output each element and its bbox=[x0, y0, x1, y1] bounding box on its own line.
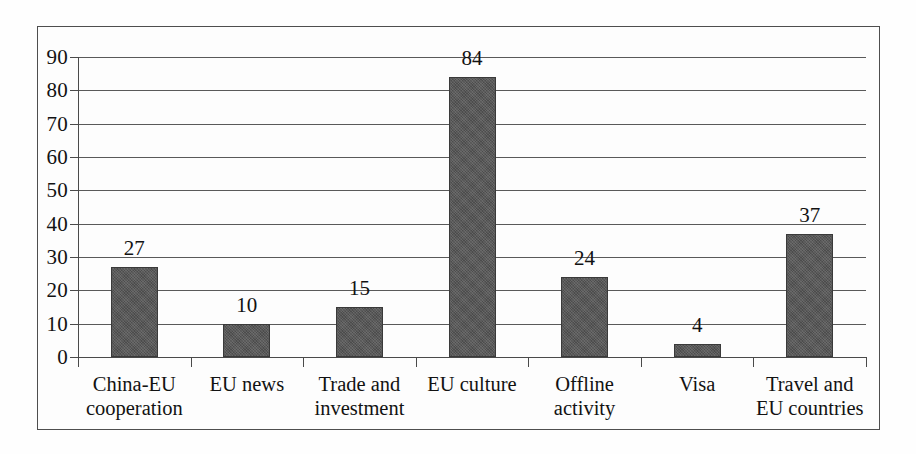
y-axis-tick-mark bbox=[70, 124, 79, 125]
y-axis-tick-mark bbox=[70, 90, 79, 91]
chart-figure: 0102030405060708090 2710158424437 China-… bbox=[0, 0, 916, 454]
bar bbox=[786, 234, 833, 357]
y-axis-tick-mark bbox=[70, 57, 79, 58]
y-axis-tick-label: 80 bbox=[28, 80, 68, 101]
y-axis-tick-label: 30 bbox=[28, 247, 68, 268]
y-axis-tick-label: 90 bbox=[28, 47, 68, 68]
bar-value-label: 84 bbox=[422, 48, 522, 69]
y-axis-tick-label: 20 bbox=[28, 280, 68, 301]
x-axis-tick-mark bbox=[191, 357, 192, 367]
y-axis-line bbox=[78, 57, 79, 358]
bar-value-label: 10 bbox=[197, 295, 297, 316]
x-axis-tick-mark bbox=[641, 357, 642, 367]
x-axis-category-label: Visa bbox=[635, 372, 760, 396]
y-axis-tick-label: 50 bbox=[28, 180, 68, 201]
bar bbox=[223, 324, 270, 357]
x-axis-tick-mark bbox=[866, 357, 867, 367]
y-axis-tick-labels: 0102030405060708090 bbox=[0, 0, 68, 454]
bar bbox=[336, 307, 383, 357]
x-axis-tick-mark bbox=[753, 357, 754, 367]
bar bbox=[449, 77, 496, 357]
y-axis-tick-mark bbox=[70, 290, 79, 291]
x-axis-category-label: Travel and EU countries bbox=[747, 372, 872, 420]
bar-value-label: 24 bbox=[535, 248, 635, 269]
x-axis-line bbox=[78, 357, 866, 358]
x-axis-category-label: EU news bbox=[185, 372, 310, 396]
y-axis-tick-label: 70 bbox=[28, 114, 68, 135]
bar-value-label: 15 bbox=[309, 278, 409, 299]
x-axis-category-label: EU culture bbox=[410, 372, 535, 396]
bar bbox=[111, 267, 158, 357]
x-axis-tick-mark bbox=[303, 357, 304, 367]
bar bbox=[561, 277, 608, 357]
y-axis-tick-mark bbox=[70, 257, 79, 258]
bar-value-label: 4 bbox=[647, 315, 747, 336]
bar-value-label: 37 bbox=[760, 205, 860, 226]
x-axis-category-label: Trade and investment bbox=[297, 372, 422, 420]
x-axis-tick-mark bbox=[78, 357, 79, 367]
y-axis-tick-label: 40 bbox=[28, 214, 68, 235]
y-axis-tick-label: 0 bbox=[28, 347, 68, 368]
x-axis-tick-mark bbox=[528, 357, 529, 367]
x-axis-tick-mark bbox=[416, 357, 417, 367]
bar-value-label: 27 bbox=[84, 238, 184, 259]
y-axis-tick-mark bbox=[70, 224, 79, 225]
x-axis-category-label: China-EU cooperation bbox=[72, 372, 197, 420]
x-axis-category-label: Offline activity bbox=[522, 372, 647, 420]
y-axis-tick-label: 60 bbox=[28, 147, 68, 168]
bar bbox=[674, 344, 721, 357]
y-axis-tick-mark bbox=[70, 157, 79, 158]
y-axis-tick-mark bbox=[70, 324, 79, 325]
y-axis-tick-mark bbox=[70, 190, 79, 191]
y-axis-tick-label: 10 bbox=[28, 314, 68, 335]
